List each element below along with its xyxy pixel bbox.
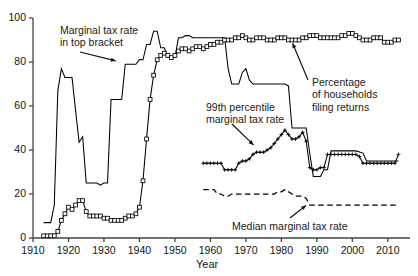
series-marker-plus — [333, 153, 337, 157]
series-marker-plus — [347, 153, 351, 157]
series-marker-square — [84, 210, 88, 214]
series-marker-plus — [326, 153, 330, 157]
series-marker-plus — [212, 161, 216, 165]
series-marker-plus — [368, 161, 372, 165]
series-line-1 — [44, 33, 399, 235]
annotation-arrow-1 — [292, 43, 308, 80]
series-marker-square — [155, 58, 159, 62]
series-marker-square — [74, 203, 78, 207]
series-marker-square — [145, 137, 149, 141]
series-marker-plus — [205, 161, 209, 165]
annotation-top-bracket: Marginal tax rate in top bracket — [60, 24, 138, 49]
series-marker-square — [70, 208, 74, 212]
series-marker-plus — [350, 153, 354, 157]
y-tick-label: 60 — [0, 99, 26, 111]
series-marker-square — [59, 219, 63, 223]
series-marker-square — [56, 230, 60, 234]
series-marker-plus — [226, 168, 230, 172]
series-marker-plus — [230, 168, 234, 172]
annotation-arrow-3 — [290, 206, 306, 218]
series-marker-plus — [216, 161, 220, 165]
x-axis-label: Year — [196, 258, 218, 270]
series-marker-square — [173, 54, 177, 58]
series-layer — [42, 31, 401, 238]
series-marker-plus — [397, 153, 401, 157]
y-tick-label: 20 — [0, 187, 26, 199]
series-marker-plus — [201, 161, 205, 165]
series-line-3 — [203, 190, 398, 205]
series-marker-square — [134, 212, 138, 216]
series-marker-plus — [361, 161, 365, 165]
series-marker-plus — [336, 153, 340, 157]
y-tick-label: 40 — [0, 143, 26, 155]
series-marker-square — [148, 98, 152, 102]
series-marker-plus — [219, 161, 223, 165]
y-tick-label: 0 — [0, 231, 26, 243]
series-marker-plus — [393, 161, 397, 165]
series-marker-plus — [375, 161, 379, 165]
x-tick-label: 2010 — [366, 244, 410, 256]
annotation-arrows — [80, 43, 308, 218]
series-marker-plus — [379, 161, 383, 165]
series-marker-square — [81, 199, 85, 203]
y-tick-label: 80 — [0, 55, 26, 67]
annotation-median: Median marginal tax rate — [232, 220, 348, 232]
series-marker-plus — [258, 150, 262, 154]
annotation-arrow-2 — [232, 124, 253, 145]
series-marker-plus — [389, 161, 393, 165]
series-marker-plus — [372, 161, 376, 165]
axes — [29, 18, 410, 242]
series-marker-plus — [382, 161, 386, 165]
series-marker-square — [52, 234, 56, 238]
annotation-arrow-0 — [80, 52, 116, 62]
series-marker-plus — [233, 168, 237, 172]
series-marker-plus — [209, 161, 213, 165]
annotation-99th-percentile: 99th percentile marginal tax rate — [206, 101, 284, 126]
y-tick-label: 100 — [0, 11, 26, 23]
series-marker-plus — [386, 161, 390, 165]
series-marker-plus — [223, 168, 227, 172]
series-marker-plus — [322, 166, 326, 170]
series-line-2 — [203, 130, 398, 170]
series-marker-square — [138, 205, 142, 209]
series-marker-square — [141, 179, 145, 183]
series-marker-plus — [365, 161, 369, 165]
series-marker-square — [379, 36, 383, 40]
annotation-filing-returns: Percentage of households filing returns — [312, 76, 377, 113]
series-marker-square — [63, 212, 67, 216]
series-marker-square — [152, 73, 156, 77]
chart-root: Marginal tax rate in top bracket Percent… — [0, 0, 418, 276]
series-marker-plus — [343, 153, 347, 157]
series-marker-square — [397, 38, 401, 42]
series-marker-plus — [340, 153, 344, 157]
